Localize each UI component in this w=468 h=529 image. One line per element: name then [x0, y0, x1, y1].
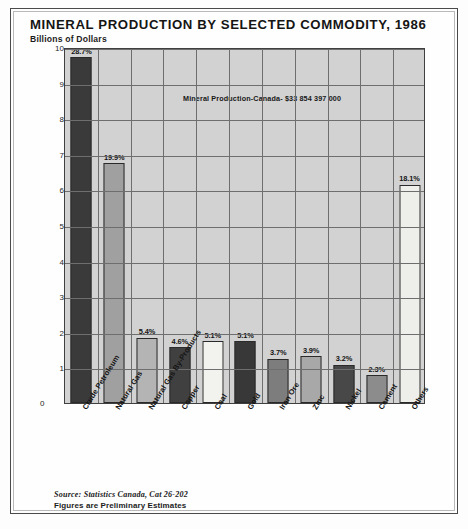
gridline-horizontal: [65, 191, 424, 192]
page-title: MINERAL PRODUCTION BY SELECTED COMMODITY…: [30, 17, 426, 32]
gridline-vertical: [262, 49, 263, 403]
chart-page: MINERAL PRODUCTION BY SELECTED COMMODITY…: [0, 0, 468, 529]
y-axis-tick-label: 5: [42, 222, 64, 231]
y-axis-tick-label: 7: [42, 150, 64, 159]
gridline-vertical: [229, 49, 230, 403]
gridline-horizontal: [65, 334, 424, 335]
axis-unit-subtitle: Billions of Dollars: [30, 34, 107, 44]
bar-group: 2.3%: [360, 49, 393, 403]
plot-area: Mineral Production-Canada- $33 854 397 0…: [64, 48, 425, 404]
bars-layer: 28.7%19.9%5.4%4.6%5.1%5.1%3.7%3.9%3.2%2.…: [65, 49, 424, 403]
gridline-horizontal: [65, 120, 424, 121]
source-note: Source: Statistics Canada, Cat 26-202: [54, 490, 188, 499]
bar-group: 5.1%: [196, 49, 229, 403]
bar-value-label: 3.7%: [270, 348, 286, 357]
bar-value-label: 3.2%: [336, 354, 352, 363]
gridline-vertical: [328, 49, 329, 403]
y-axis-tick-label: 2: [42, 328, 64, 337]
gridline-horizontal: [65, 263, 424, 264]
gridline-vertical: [131, 49, 132, 403]
bar-value-label: 19.9%: [104, 153, 124, 162]
gridline-horizontal: [65, 369, 424, 370]
y-axis-tick-label: 6: [42, 186, 64, 195]
estimates-note: Figures are Preliminary Estimates: [54, 501, 186, 510]
y-axis: 12345678910: [36, 48, 64, 404]
bar-group: 28.7%: [65, 49, 98, 403]
gridline-vertical: [163, 49, 164, 403]
gridline-vertical: [196, 49, 197, 403]
y-axis-tick-label: 4: [42, 257, 64, 266]
y-axis-tick-label: 10: [42, 44, 64, 53]
bar-group: 3.7%: [262, 49, 295, 403]
y-axis-tick-label: 8: [42, 115, 64, 124]
bar-value-label: 18.1%: [399, 174, 419, 183]
plot-wrapper: Mineral Production-Canada- $33 854 397 0…: [64, 48, 425, 404]
bar-value-label: 5.4%: [139, 327, 155, 336]
bar-group: 19.9%: [98, 49, 131, 403]
gridline-vertical: [295, 49, 296, 403]
bar-value-label: 3.9%: [303, 346, 319, 355]
bar-group: 5.1%: [229, 49, 262, 403]
gridline-vertical: [98, 49, 99, 403]
bar-group: 18.1%: [393, 49, 425, 403]
bar-value-label: 5.1%: [204, 331, 220, 340]
y-axis-zero-label: 0: [40, 399, 44, 408]
gridline-horizontal: [65, 227, 424, 228]
gridline-vertical: [393, 49, 394, 403]
y-axis-tick-label: 3: [42, 293, 64, 302]
gridline-horizontal: [65, 49, 424, 50]
bar-group: 5.4%: [131, 49, 164, 403]
y-axis-tick-label: 1: [42, 364, 64, 373]
bar-group: 3.9%: [295, 49, 328, 403]
gridline-vertical: [360, 49, 361, 403]
bar-value-label: 5.1%: [237, 331, 253, 340]
gridline-horizontal: [65, 298, 424, 299]
y-axis-tick-label: 9: [42, 79, 64, 88]
gridline-horizontal: [65, 156, 424, 157]
bar-group: 3.2%: [328, 49, 361, 403]
bar[interactable]: [71, 57, 92, 403]
gridline-horizontal: [65, 85, 424, 86]
